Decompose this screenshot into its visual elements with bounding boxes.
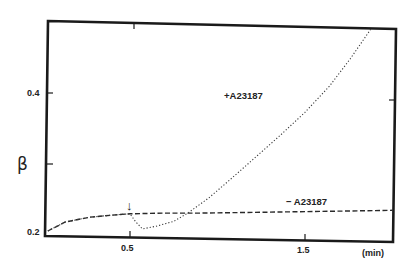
annotation-plus-a23187: +A23187: [224, 90, 263, 101]
y-axis-label: β: [17, 154, 28, 174]
y-tick-label-0.4: 0.4: [27, 88, 40, 98]
plot-frame: [45, 21, 396, 242]
x-axis-unit: (min): [362, 248, 384, 258]
series-minus-a23187: [48, 210, 393, 231]
x-tick-label-0.5: 0.5: [121, 243, 134, 253]
x-tick-label-1.5: 1.5: [297, 245, 310, 255]
annotation-minus-a23187: − A23187: [286, 196, 327, 207]
annotation-arrow-addition: ↓: [126, 198, 133, 213]
y-tick-label-0.2: 0.2: [27, 227, 40, 237]
chart: 0.4 0.2 0.5 1.5 (min) β ↓ +A23187 − A231…: [0, 0, 415, 271]
